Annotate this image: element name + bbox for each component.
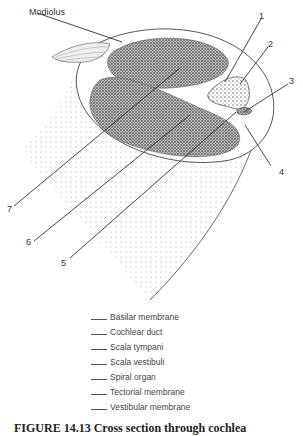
answer-blank[interactable] [91,386,107,395]
term-item: Basilar membrane [91,310,190,325]
answer-term-list: Basilar membrane Cochlear duct Scala tym… [91,310,190,415]
answer-blank[interactable] [91,341,107,350]
callout-7: 7 [7,205,12,214]
modiolus-label: Modiolus [29,8,65,17]
answer-blank[interactable] [91,311,107,320]
callout-5: 5 [61,259,66,268]
callout-4: 4 [279,168,284,177]
cochlea-illustration [0,0,303,300]
term-item: Cochlear duct [91,325,190,340]
callout-1: 1 [259,12,264,21]
callout-3: 3 [289,77,294,86]
term-item: Spiral organ [91,370,190,385]
answer-blank[interactable] [91,326,107,335]
figure-caption: FIGURE 14.13 Cross section through cochl… [14,421,246,436]
callout-6: 6 [26,238,31,247]
callout-2: 2 [268,40,273,49]
term-item: Vestibular membrane [91,400,190,415]
term-item: Tectorial membrane [91,385,190,400]
term-item: Scala vestibuli [91,355,190,370]
answer-blank[interactable] [91,371,107,380]
term-item: Scala tympani [91,340,190,355]
answer-blank[interactable] [91,401,107,410]
answer-blank[interactable] [91,356,107,365]
